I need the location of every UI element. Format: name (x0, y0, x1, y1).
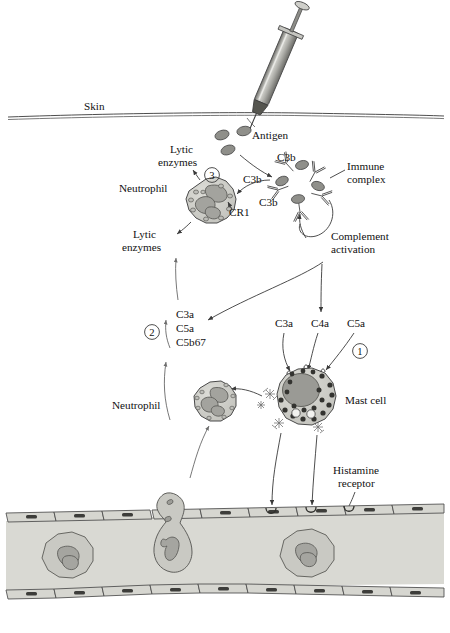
complement-activation-line1: Complement (331, 230, 390, 242)
neutrophil-top-label: Neutrophil (119, 182, 167, 194)
anaphylatoxin-c5a: C5a (347, 317, 365, 329)
histamine-receptor-line2: receptor (338, 477, 375, 489)
immunology-diagram: Skin Antigen (0, 0, 450, 633)
complement-activation-line2: activation (331, 243, 376, 255)
step-3-number: 3 (209, 170, 214, 181)
immune-complex-label-line1: Immune (347, 160, 384, 172)
neutrophil-bottom-label: Neutrophil (112, 399, 160, 411)
lytic-enzymes-bottom-line1: Lytic (133, 228, 156, 240)
c3b-label-bottom: C3b (259, 196, 278, 208)
mediator-c3a: C3a (176, 308, 194, 320)
anaphylatoxin-c4a: C4a (311, 317, 329, 329)
fusion-pore (307, 410, 315, 418)
anaphylatoxin-c3a: C3a (275, 317, 293, 329)
step-2-number: 2 (149, 327, 154, 338)
mast-cell-label: Mast cell (345, 394, 386, 406)
histamine-receptor-line1: Histamine (333, 464, 379, 476)
skin-label: Skin (84, 100, 105, 112)
mediator-c5b67: C5b67 (176, 336, 206, 348)
mediator-c5a: C5a (176, 322, 194, 334)
lytic-enzymes-top-line2: enzymes (158, 156, 197, 168)
step-1-number: 1 (357, 346, 362, 357)
immune-complex-label-line2: complex (347, 173, 386, 185)
fusion-pore (292, 409, 300, 417)
c3b-label-top: C3b (277, 151, 296, 163)
figure-canvas: Skin Antigen (0, 0, 450, 633)
lytic-enzymes-bottom-line2: enzymes (122, 241, 161, 253)
lytic-enzymes-top-line1: Lytic (170, 143, 193, 155)
cr1-label: CR1 (229, 206, 250, 218)
antigen-label: Antigen (252, 129, 288, 141)
nucleus-lobe (211, 406, 224, 416)
